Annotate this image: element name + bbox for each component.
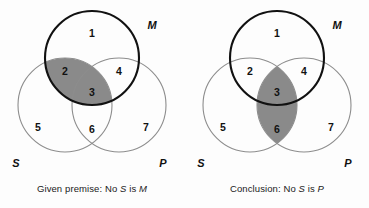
set-label-p: P bbox=[344, 157, 352, 169]
set-label-p: P bbox=[159, 157, 167, 169]
caption-right-prefix: Conclusion: No bbox=[230, 183, 299, 194]
region-label-5: 5 bbox=[220, 121, 226, 133]
region-label-4: 4 bbox=[116, 65, 122, 77]
caption-left: Given premise: No S is M bbox=[0, 183, 184, 194]
panel-conclusion: 1 2 3 4 5 6 7 M S P Conclusion: No S is … bbox=[185, 0, 369, 208]
region-label-7: 7 bbox=[143, 121, 149, 133]
venn-diagram-right: 1 2 3 4 5 6 7 M S P bbox=[185, 0, 369, 178]
set-label-s: S bbox=[12, 157, 20, 169]
region-label-3: 3 bbox=[274, 86, 280, 98]
venn-figure: 1 2 3 4 5 6 7 M S P Given premise: No S … bbox=[0, 0, 369, 208]
caption-left-prefix: Given premise: No bbox=[37, 183, 120, 194]
region-label-4: 4 bbox=[301, 65, 307, 77]
region-label-6: 6 bbox=[89, 123, 95, 135]
caption-left-middle: is bbox=[126, 183, 139, 194]
region-label-1: 1 bbox=[274, 27, 280, 39]
venn-diagram-left: 1 2 3 4 5 6 7 M S P bbox=[0, 0, 184, 178]
set-label-m: M bbox=[147, 19, 157, 31]
region-label-2: 2 bbox=[247, 65, 253, 77]
caption-right: Conclusion: No S is P bbox=[185, 183, 369, 194]
panel-given-premise: 1 2 3 4 5 6 7 M S P Given premise: No S … bbox=[0, 0, 184, 208]
region-label-5: 5 bbox=[35, 121, 41, 133]
region-label-1: 1 bbox=[89, 27, 95, 39]
caption-right-middle: is bbox=[305, 183, 318, 194]
caption-right-predicate: P bbox=[318, 183, 324, 194]
set-label-s: S bbox=[197, 157, 205, 169]
region-label-7: 7 bbox=[328, 121, 334, 133]
region-label-2: 2 bbox=[62, 65, 68, 77]
caption-left-predicate: M bbox=[139, 183, 147, 194]
region-label-3: 3 bbox=[89, 86, 95, 98]
region-label-6: 6 bbox=[274, 123, 280, 135]
set-label-m: M bbox=[332, 19, 342, 31]
